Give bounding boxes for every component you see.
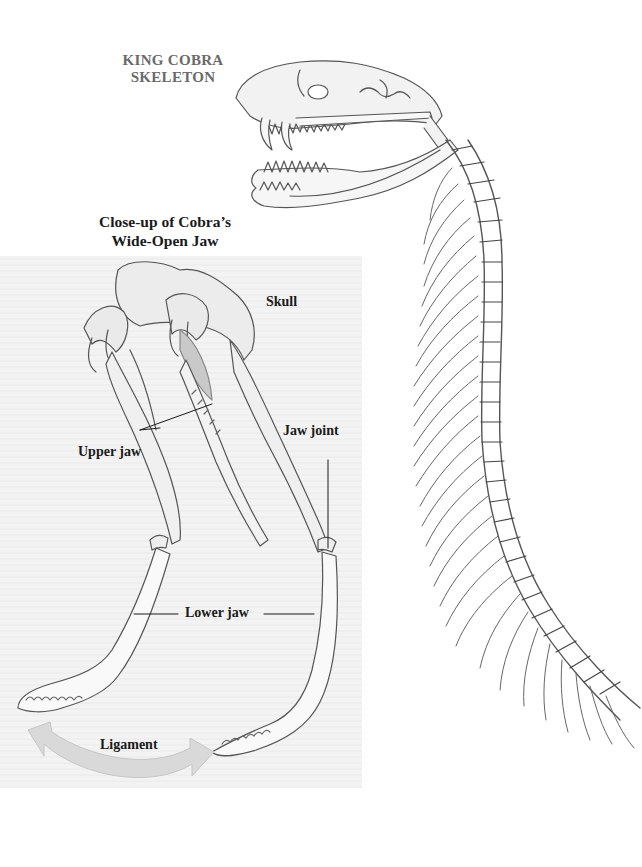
closeup-lower-jaw-drawing bbox=[18, 548, 337, 756]
closeup-skull-drawing bbox=[84, 262, 336, 552]
ligament-label: Ligament bbox=[100, 737, 158, 753]
jaw-joint-label: Jaw joint bbox=[283, 423, 339, 439]
lower-jaw-label: Lower jaw bbox=[185, 605, 249, 621]
upper-jaw-label: Upper jaw bbox=[78, 444, 141, 460]
skull-label: Skull bbox=[266, 294, 297, 310]
cobra-skull-drawing bbox=[236, 61, 458, 208]
cobra-spine-drawing bbox=[414, 140, 640, 748]
